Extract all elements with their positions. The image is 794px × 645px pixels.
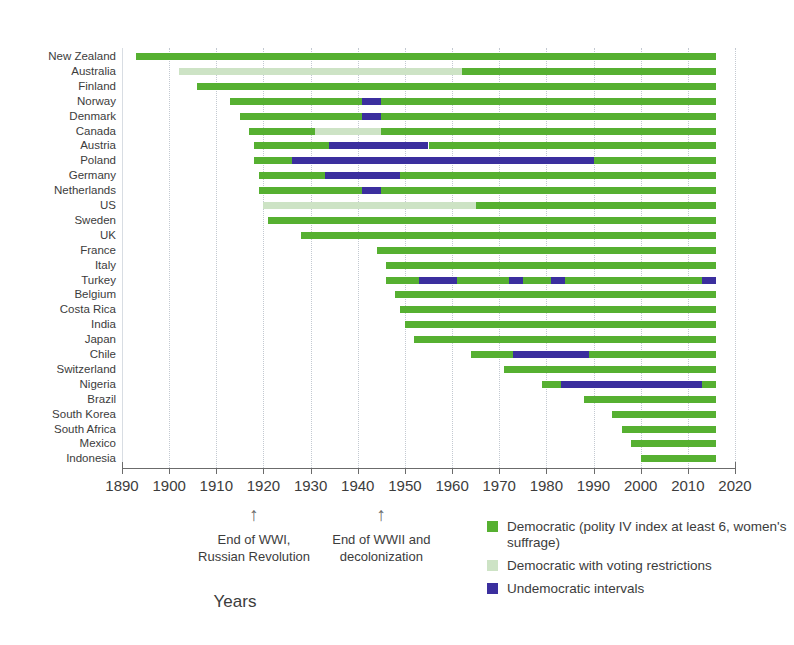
tick-label-2020: 2020	[718, 477, 751, 494]
bar-segment	[702, 381, 716, 388]
tick-label-1980: 1980	[530, 477, 563, 494]
country-label: Norway	[6, 95, 116, 107]
bar-segment	[429, 142, 717, 149]
tick-label-1960: 1960	[435, 477, 468, 494]
x-axis-line	[122, 468, 736, 469]
annotation-line: decolonization	[332, 548, 430, 565]
bar-segment	[395, 291, 716, 298]
chart-legend: Democratic (polity IV index at least 6, …	[487, 519, 787, 604]
country-label: Brazil	[6, 393, 116, 405]
bar-segment	[476, 202, 716, 209]
bar-segment	[622, 426, 716, 433]
tick-label-1950: 1950	[388, 477, 421, 494]
bar-segment	[263, 202, 475, 209]
bar-segment	[400, 306, 716, 313]
annotation-text: End of WWII anddecolonization	[332, 531, 430, 565]
bar-segment	[584, 396, 716, 403]
tick-1950	[405, 468, 406, 474]
bar-segment	[414, 336, 716, 343]
bar-segment	[641, 455, 716, 462]
country-label: India	[6, 318, 116, 330]
bar-segment	[386, 262, 716, 269]
annotation-text: End of WWI,Russian Revolution	[198, 531, 310, 565]
country-label: Chile	[6, 348, 116, 360]
bar-segment	[565, 277, 702, 284]
bar-segment	[509, 277, 523, 284]
tick-label-2010: 2010	[671, 477, 704, 494]
bar-segment	[612, 411, 716, 418]
bar-segment	[381, 98, 716, 105]
country-label: Nigeria	[6, 378, 116, 390]
legend-item-democratic: Democratic (polity IV index at least 6, …	[487, 519, 787, 551]
bar-segment	[561, 381, 702, 388]
bars	[122, 48, 735, 468]
country-label: Germany	[6, 169, 116, 181]
country-label: South Korea	[6, 408, 116, 420]
country-label: Indonesia	[6, 452, 116, 464]
tick-1910	[216, 468, 217, 474]
bar-segment	[362, 187, 381, 194]
bar-segment	[136, 53, 716, 60]
tick-1940	[358, 468, 359, 474]
tick-label-1930: 1930	[294, 477, 327, 494]
bar-segment	[329, 142, 428, 149]
bar-segment	[542, 381, 561, 388]
annotation-line: End of WWI,	[198, 531, 310, 548]
bar-segment	[400, 172, 716, 179]
annotation-arrow-icon: ↑	[249, 505, 259, 524]
bar-segment	[259, 172, 325, 179]
bar-segment	[594, 157, 717, 164]
tick-1990	[594, 468, 595, 474]
bar-segment	[254, 157, 292, 164]
plot-area	[122, 48, 735, 468]
country-label: Sweden	[6, 214, 116, 226]
annotation-line: End of WWII and	[332, 531, 430, 548]
country-label: Belgium	[6, 288, 116, 300]
bar-segment	[471, 351, 513, 358]
tick-1930	[311, 468, 312, 474]
tick-1980	[546, 468, 547, 474]
legend-label: Democratic with voting restrictions	[507, 558, 712, 574]
legend-item-restricted: Democratic with voting restrictions	[487, 558, 787, 574]
country-label: Switzerland	[6, 363, 116, 375]
country-label: Mexico	[6, 437, 116, 449]
country-label: France	[6, 244, 116, 256]
bar-segment	[292, 157, 594, 164]
country-label: New Zealand	[6, 50, 116, 62]
bar-segment	[381, 128, 716, 135]
bar-segment	[315, 128, 381, 135]
tick-label-1970: 1970	[483, 477, 516, 494]
bar-segment	[301, 232, 716, 239]
axis-cap-right	[735, 462, 736, 469]
bar-segment	[381, 187, 716, 194]
bar-segment	[240, 113, 363, 120]
tick-2000	[641, 468, 642, 474]
legend-swatch-undemocratic	[487, 583, 498, 594]
tick-1920	[263, 468, 264, 474]
bar-segment	[386, 277, 419, 284]
tick-2010	[688, 468, 689, 474]
bar-segment	[179, 68, 462, 75]
bar-segment	[377, 247, 717, 254]
bar-segment	[259, 187, 363, 194]
tick-label-1900: 1900	[152, 477, 185, 494]
bar-segment	[405, 321, 716, 328]
country-label: Canada	[6, 125, 116, 137]
tick-1960	[452, 468, 453, 474]
bar-segment	[462, 68, 717, 75]
gridline-2020	[735, 48, 737, 468]
country-label: Denmark	[6, 110, 116, 122]
bar-segment	[197, 83, 716, 90]
tick-1900	[169, 468, 170, 474]
tick-label-1910: 1910	[200, 477, 233, 494]
country-label: Netherlands	[6, 184, 116, 196]
country-label: Poland	[6, 154, 116, 166]
tick-1970	[499, 468, 500, 474]
country-label: Italy	[6, 259, 116, 271]
bar-segment	[631, 440, 716, 447]
bar-segment	[362, 113, 381, 120]
tick-label-1890: 1890	[105, 477, 138, 494]
bar-segment	[268, 217, 716, 224]
bar-segment	[551, 277, 565, 284]
bar-segment	[419, 277, 457, 284]
